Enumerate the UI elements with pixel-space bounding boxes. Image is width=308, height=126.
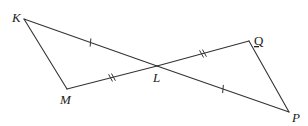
- segment-km: [24, 19, 67, 89]
- label-k: K: [11, 10, 22, 25]
- label-q: Q: [254, 33, 264, 48]
- segment-qp: [249, 41, 289, 112]
- tick-mark-lp: [223, 85, 224, 93]
- segment-ml: [67, 66, 157, 89]
- segment-lq: [157, 41, 249, 66]
- tick-mark-kl: [90, 38, 91, 46]
- label-p: P: [291, 110, 300, 125]
- label-m: M: [59, 92, 72, 107]
- label-l: L: [152, 70, 160, 85]
- geometry-diagram: K M L Q P: [0, 0, 308, 126]
